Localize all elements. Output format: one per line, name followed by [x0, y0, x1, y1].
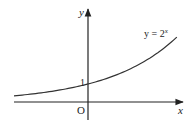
- origin-label: O: [77, 104, 85, 116]
- x-axis-label: x: [177, 104, 183, 116]
- exponential-graph: y x O 1 y = 2x: [0, 0, 190, 128]
- curve-label-exponent: x: [164, 27, 169, 35]
- y-axis-label: y: [78, 6, 84, 18]
- curve-label-base: y = 2: [144, 28, 165, 39]
- curve-label: y = 2x: [144, 27, 169, 39]
- curve-y-equals-2-to-x: [14, 37, 177, 96]
- y-intercept-label: 1: [80, 77, 85, 88]
